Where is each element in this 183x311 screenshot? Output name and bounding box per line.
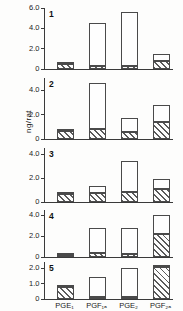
bar-segment-hatched <box>89 66 106 69</box>
bar-segment-open <box>89 23 106 66</box>
y-axis-ticks: 01.02.0 <box>1 262 45 299</box>
bar-group <box>45 210 174 257</box>
y-tick-label: 1.0 <box>29 279 39 288</box>
y-tick-label: 0 <box>35 197 39 206</box>
bar-segment-open <box>121 118 138 132</box>
bar-segment-hatched <box>57 194 74 202</box>
bar-group <box>45 262 174 299</box>
y-tick-label: 4.0 <box>29 23 39 32</box>
y-tick-label: 2.0 <box>29 173 39 182</box>
bar-PGE2 <box>121 228 138 257</box>
bar-PGE1 <box>57 255 74 257</box>
bar-segment-open <box>153 215 170 233</box>
y-tick-label: 2.0 <box>29 44 39 53</box>
y-tick-label: 2.0 <box>29 110 39 119</box>
x-axis-label-PGE2: PGE₂ <box>111 301 147 310</box>
y-tick-label: 0 <box>35 252 39 261</box>
bar-PGE1 <box>57 193 74 202</box>
plot-area: 501.02.0 <box>44 262 173 300</box>
y-tick-label: 4.0 <box>29 210 39 219</box>
plot-area: 402.04.0 <box>44 210 173 258</box>
bar-segment-hatched <box>89 129 106 139</box>
bar-segment-open <box>153 105 170 122</box>
bar-group <box>45 148 174 202</box>
y-axis-ticks: 02.04.06.0 <box>1 8 45 69</box>
panel-4: 402.04.0 <box>44 210 173 258</box>
bar-segment-open <box>89 228 106 254</box>
x-axis-label-PGE1: PGE₁ <box>47 301 83 310</box>
bar-PGF2a <box>153 54 170 69</box>
bar-segment-hatched <box>153 61 170 69</box>
bar-PGF1a <box>89 23 106 69</box>
x-axis-label-PGF2a: PGF₂ₐ <box>143 301 179 310</box>
panel-5: 501.02.0 <box>44 262 173 300</box>
bar-PGE1 <box>57 130 74 139</box>
bar-segment-hatched <box>153 234 170 257</box>
bar-group <box>45 78 174 139</box>
bar-PGE1 <box>57 63 74 69</box>
bar-PGF1a <box>89 186 106 202</box>
y-tick-label: 6.0 <box>29 3 39 12</box>
bar-segment-hatched <box>121 192 138 202</box>
bar-segment-open <box>121 228 138 254</box>
bar-segment-hatched <box>121 66 138 69</box>
bar-segment-hatched <box>57 287 74 299</box>
y-tick-label: 0 <box>35 134 39 143</box>
bar-PGF2a <box>153 179 170 202</box>
figure-container: ng/rat 102.04.06.0202.04.0302.04.0402.04… <box>0 0 183 311</box>
bar-segment-hatched <box>121 132 138 139</box>
bar-segment-open <box>121 12 138 66</box>
bar-PGF2a <box>153 265 170 299</box>
bar-segment-hatched <box>89 193 106 202</box>
y-axis-ticks: 02.04.0 <box>1 210 45 257</box>
bar-segment-open <box>153 54 170 61</box>
bar-segment-hatched <box>153 189 170 202</box>
bar-segment-hatched <box>153 267 170 299</box>
y-tick-label: 2.0 <box>29 263 39 272</box>
bar-PGF2a <box>153 105 170 139</box>
bar-segment-hatched <box>89 297 106 299</box>
bar-segment-open <box>153 179 170 190</box>
plot-area: 202.04.0 <box>44 78 173 140</box>
plot-area: 102.04.06.0 <box>44 8 173 70</box>
panel-1: 102.04.06.0 <box>44 8 173 70</box>
bar-PGF1a <box>89 277 106 299</box>
bar-segment-hatched <box>153 122 170 139</box>
y-tick-label: 0 <box>35 64 39 73</box>
plot-area: 302.04.0 <box>44 148 173 203</box>
bar-PGE1 <box>57 287 74 299</box>
bar-segment-open <box>89 277 106 297</box>
y-tick-label: 4.0 <box>29 85 39 94</box>
y-axis-ticks: 02.04.0 <box>1 148 45 202</box>
bar-segment-hatched <box>57 255 74 257</box>
bar-segment-open <box>89 83 106 129</box>
bar-PGF2a <box>153 215 170 257</box>
bar-segment-open <box>89 186 106 193</box>
bar-PGF1a <box>89 83 106 139</box>
bar-PGE2 <box>121 118 138 139</box>
panel-2: 202.04.0 <box>44 78 173 140</box>
bar-segment-hatched <box>57 64 74 69</box>
y-tick-label: 4.0 <box>29 149 39 158</box>
x-axis-label-PGF1a: PGF₁ₐ <box>79 301 115 310</box>
bar-segment-open <box>121 161 138 193</box>
x-axis-labels: PGE₁PGF₁ₐPGE₂PGF₂ₐ <box>44 301 173 311</box>
bar-segment-hatched <box>89 253 106 257</box>
bar-PGE2 <box>121 161 138 202</box>
bar-PGE2 <box>121 268 138 299</box>
bar-segment-open <box>121 268 138 297</box>
bar-segment-hatched <box>121 297 138 299</box>
y-tick-label: 2.0 <box>29 231 39 240</box>
bar-PGE2 <box>121 12 138 69</box>
y-tick-label: 0 <box>35 294 39 303</box>
panel-3: 302.04.0 <box>44 148 173 203</box>
bar-group <box>45 8 174 69</box>
y-axis-ticks: 02.04.0 <box>1 78 45 139</box>
bar-segment-hatched <box>57 131 74 139</box>
bar-segment-hatched <box>121 254 138 257</box>
bar-PGF1a <box>89 228 106 257</box>
